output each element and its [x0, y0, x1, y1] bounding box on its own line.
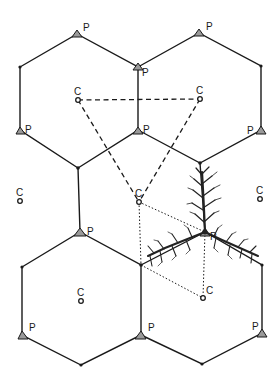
vertex-label: P — [252, 321, 259, 332]
vertex-label: P — [247, 125, 254, 136]
vertex-label: P — [83, 22, 90, 33]
center-label: C — [16, 187, 23, 198]
center-label: C — [74, 86, 81, 97]
vertex-label: P — [206, 21, 213, 32]
center-label: C — [77, 287, 84, 298]
vertex-label: P — [29, 322, 36, 333]
dendritic-arbor — [148, 167, 258, 266]
vertex-label: P — [143, 124, 150, 135]
vertex-label: P — [148, 322, 155, 333]
center-label: C — [206, 285, 213, 296]
dotted-lines — [139, 202, 205, 298]
vertex-labels: P P P P P P P P P P P — [25, 21, 259, 333]
dashed-triangle — [78, 99, 200, 202]
center-markers — [18, 97, 263, 304]
hexagon-edges — [20, 33, 262, 365]
vertex-label: P — [142, 67, 149, 78]
hexagonal-lattice-diagram: C C C C C C C P P P P P P P P P P P — [0, 0, 278, 384]
center-label: C — [135, 188, 142, 199]
center-label: C — [196, 85, 203, 96]
vertex-label: P — [25, 124, 32, 135]
center-label: C — [256, 185, 263, 196]
vertex-label: P — [210, 231, 217, 242]
vertex-label: P — [87, 226, 94, 237]
